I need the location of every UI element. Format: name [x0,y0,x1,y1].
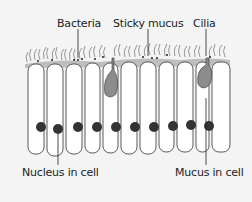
label-cilia: Cilia [193,18,216,30]
label-nucleus-in-cell: Nucleus in cell [22,167,99,179]
label-sticky-mucus: Sticky mucus [113,18,183,30]
label-bacteria: Bacteria [57,18,101,30]
ciliated-epithelium-diagram: Bacteria Sticky mucus Cilia Nucleus in c… [0,0,252,202]
label-mucus-in-cell: Mucus in cell [175,167,244,179]
